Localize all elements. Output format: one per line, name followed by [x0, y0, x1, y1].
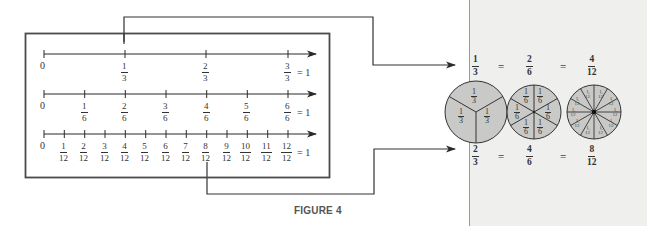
zero-label: 0 [40, 100, 45, 111]
equals-sign: = [498, 150, 504, 162]
segment-label: 16 [523, 119, 529, 136]
svg-text:12: 12 [585, 94, 591, 99]
svg-text:12: 12 [571, 112, 577, 117]
tick-label: 16 [81, 102, 88, 123]
tick-label: 812 [201, 142, 210, 163]
svg-text:12: 12 [613, 112, 619, 117]
fraction-four-twelfths: 412 [587, 55, 597, 77]
equals-one-label: = 1 [297, 147, 310, 158]
svg-text:12: 12 [575, 123, 581, 128]
segment-label: 13 [458, 108, 464, 125]
tick-label: 1012 [240, 142, 251, 163]
tick-label: 712 [181, 142, 190, 163]
segment-label: 13 [471, 88, 477, 105]
equals-sign: = [560, 60, 566, 72]
fraction-two-thirds: 23 [472, 145, 479, 167]
tick-label: 36 [162, 102, 169, 123]
svg-text:12: 12 [609, 101, 615, 106]
segment-label: 16 [545, 104, 551, 121]
top-connector-arrow [124, 17, 455, 65]
segment-label: 16 [523, 88, 529, 105]
equals-one-label: = 1 [297, 67, 310, 78]
tick-label: 1212 [281, 142, 292, 163]
tick-label: 66 [284, 102, 291, 123]
svg-text:12: 12 [609, 123, 615, 128]
svg-text:12: 12 [598, 130, 604, 135]
fraction-four-sixths: 46 [526, 145, 533, 167]
twelfths-circle: 1̲12 1̲12 1̲12 1̲12 1̲12 1̲12 1̲12 1̲12 … [567, 85, 621, 139]
zero-label: 0 [40, 140, 45, 151]
equals-sign: = [498, 60, 504, 72]
svg-text:12: 12 [598, 94, 604, 99]
segment-label: 13 [484, 108, 490, 125]
fraction-one-third: 13 [472, 55, 479, 77]
tick-label: 312 [100, 142, 109, 163]
number-line-thirds [44, 50, 316, 58]
tick-label: 512 [140, 142, 149, 163]
tick-label: 13 [121, 62, 128, 83]
tick-label: 112 [59, 142, 68, 163]
zero-label: 0 [40, 60, 45, 71]
equals-one-label: = 1 [297, 107, 310, 118]
number-line-sixths [44, 90, 316, 98]
tick-label: 23 [202, 62, 209, 83]
fraction-two-sixths: 26 [526, 55, 533, 77]
segment-label: 16 [537, 119, 543, 136]
tick-label: 412 [120, 142, 129, 163]
tick-label: 46 [203, 102, 210, 123]
equals-sign: = [560, 150, 566, 162]
tick-label: 26 [121, 102, 128, 123]
svg-text:12: 12 [575, 101, 581, 106]
tick-label: 212 [79, 142, 88, 163]
tick-label: 56 [243, 102, 250, 123]
tick-label: 1112 [261, 142, 272, 163]
figure-caption: FIGURE 4 [294, 205, 342, 216]
fraction-eight-twelfths: 812 [587, 145, 597, 167]
segment-label: 16 [514, 104, 520, 121]
tick-label: 612 [161, 142, 170, 163]
tick-label: 33 [284, 62, 291, 83]
segment-label: 16 [537, 88, 543, 105]
number-line-twelfths [44, 130, 316, 138]
tick-label: 912 [222, 142, 231, 163]
svg-text:12: 12 [585, 130, 591, 135]
